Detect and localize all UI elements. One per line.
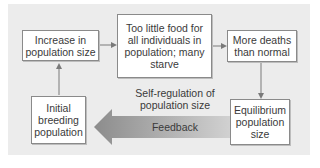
feedback-label: Feedback bbox=[140, 121, 210, 133]
node-equilibrium: Equilibrium population size bbox=[230, 99, 290, 145]
node-increase: Increase in population size bbox=[22, 30, 99, 61]
node-too-little-food: Too little food for all individuals in p… bbox=[117, 14, 212, 78]
node-more-deaths: More deaths than normal bbox=[227, 30, 297, 62]
self-regulation-label: Self-regulation of population size bbox=[115, 87, 235, 111]
arrow-up-icon bbox=[56, 63, 62, 69]
node-initial: Initial breeding population bbox=[31, 96, 86, 144]
